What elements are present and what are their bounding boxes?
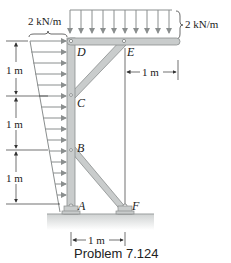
dim-label-upper: 1 m (142, 66, 159, 78)
dim-label-BA: 1 m (6, 172, 23, 184)
dim-label-CB: 1 m (6, 118, 23, 130)
member-AD (67, 38, 75, 211)
point-D: D (76, 45, 86, 59)
left-load-brace (29, 31, 67, 37)
members (67, 38, 180, 213)
supports (62, 206, 134, 214)
point-F: F (131, 199, 140, 213)
left-triangular-load (30, 41, 66, 212)
dim-label-DC: 1 m (6, 64, 23, 76)
ground (47, 214, 154, 230)
point-B: B (77, 141, 85, 155)
point-E: E (126, 45, 135, 59)
figure-caption: Problem 7.124 (74, 246, 159, 261)
left-load-label: 2 kN/m (28, 15, 62, 27)
point-C: C (77, 96, 86, 110)
dim-label-bottom: 1 m (88, 234, 105, 246)
top-distributed-load (70, 10, 172, 33)
frame-diagram: 2 kN/m 2 kN/m 1 m 1 m 1 m (0, 0, 231, 263)
top-load-brace (176, 11, 183, 39)
top-load-label: 2 kN/m (185, 18, 219, 30)
point-A: A (77, 199, 86, 213)
